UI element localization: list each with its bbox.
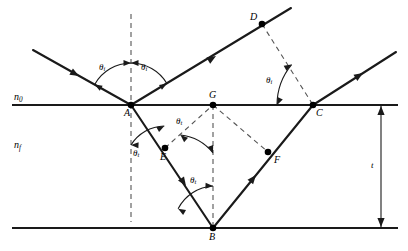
- point-markers: [128, 21, 317, 232]
- ray-diagram-canvas: [0, 0, 408, 251]
- wavefront-d-to-c-line: [262, 24, 313, 105]
- medium-label-lower: nf: [14, 140, 21, 152]
- angle-label-theta-i-incident: θi: [99, 63, 105, 73]
- wavefront-e-to-g-line: [165, 105, 213, 148]
- point-marker-f: [265, 149, 272, 156]
- arrowhead-angle-t-at-a-a: [156, 123, 165, 132]
- point-label-e: E: [160, 152, 166, 162]
- thickness-arrowhead-top: [377, 106, 384, 115]
- ray-diagram-figure: n0 nf t A B C D E F G θi θi θi θt θt θt: [0, 0, 408, 251]
- point-marker-d: [259, 21, 266, 28]
- transmitted-ray-at-c: [313, 52, 396, 105]
- angle-label-theta-i-reflected: θi: [141, 63, 147, 73]
- angle-label-theta-i-at-c: θi: [266, 76, 272, 86]
- thickness-dimension: [377, 105, 384, 228]
- arrowhead-incident: [69, 68, 80, 79]
- arrowhead-angle-i-incident-b: [124, 60, 132, 66]
- reflected-ray-b-to-c: [213, 105, 313, 228]
- angle-arc-theta-t-at-b: [178, 186, 213, 209]
- point-label-g: G: [209, 90, 216, 100]
- arrowhead-angle-t-at-b-b: [177, 206, 186, 215]
- medium-label-upper: n0: [14, 92, 23, 104]
- point-label-d: D: [250, 12, 257, 22]
- point-marker-g: [210, 102, 217, 109]
- arrowhead-angle-i-reflected-b: [131, 60, 139, 66]
- angle-label-theta-t-at-a: θt: [133, 149, 139, 159]
- incident-ray: [33, 50, 131, 105]
- thickness-label: t: [371, 161, 374, 170]
- ray-direction-arrowheads: [69, 53, 365, 188]
- refracted-ray-a-to-b: [131, 105, 213, 228]
- angle-label-theta-t-at-b: θt: [190, 176, 196, 186]
- angle-arcs: [95, 63, 292, 209]
- wavefront-g-to-f-line: [213, 105, 268, 152]
- angle-arc-theta-i-reflected: [131, 63, 167, 84]
- light-rays: [33, 8, 396, 228]
- construction-lines: [131, 14, 313, 228]
- point-label-b: B: [209, 232, 215, 242]
- point-label-c: C: [316, 108, 323, 118]
- point-label-f: F: [274, 155, 280, 165]
- arrowhead-angle-t-at-g-a: [208, 145, 216, 154]
- angle-label-theta-t-at-g: θt: [176, 117, 182, 127]
- thickness-arrowhead-bottom: [377, 218, 384, 227]
- interface-boundaries: [12, 105, 398, 228]
- arrowhead-angle-t-at-b-a: [205, 183, 213, 189]
- point-label-a: A: [124, 108, 130, 118]
